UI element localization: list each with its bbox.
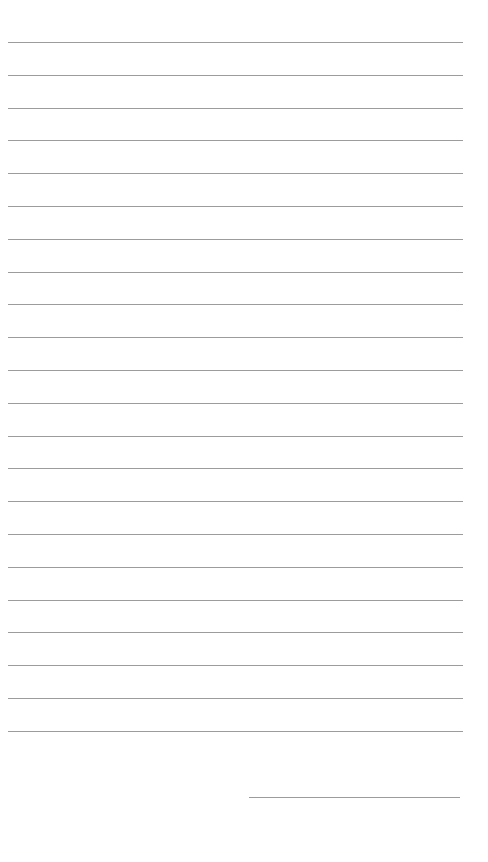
ruled-line: [8, 370, 463, 371]
ruled-line: [8, 632, 463, 633]
ruled-line: [8, 206, 463, 207]
ruled-line: [8, 731, 463, 732]
ruled-line: [8, 42, 463, 43]
ruled-line: [8, 272, 463, 273]
ruled-line: [8, 534, 463, 535]
signature-line: [249, 797, 460, 798]
ruled-line: [8, 140, 463, 141]
ruled-line: [8, 239, 463, 240]
ruled-line: [8, 600, 463, 601]
ruled-line: [8, 403, 463, 404]
ruled-line: [8, 567, 463, 568]
ruled-line: [8, 108, 463, 109]
ruled-line: [8, 75, 463, 76]
ruled-line: [8, 501, 463, 502]
ruled-line: [8, 698, 463, 699]
ruled-line: [8, 665, 463, 666]
ruled-line: [8, 173, 463, 174]
ruled-line: [8, 337, 463, 338]
ruled-line: [8, 436, 463, 437]
lined-paper-page: [0, 0, 488, 862]
ruled-line: [8, 304, 463, 305]
ruled-line: [8, 468, 463, 469]
